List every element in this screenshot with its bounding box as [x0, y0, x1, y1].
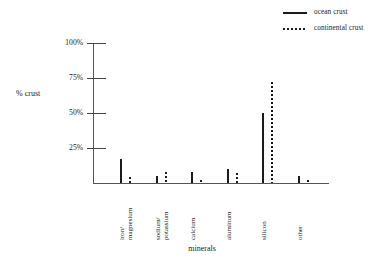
category-label-iron-: iron/	[119, 227, 126, 240]
x-axis-line	[93, 183, 329, 184]
bar-ocean-crust-iron--magnesium	[120, 159, 122, 183]
bar-continental-crust-calcium	[200, 180, 202, 183]
plot-area: 100%75%50%25% iron/magnesiumsodium/potas…	[0, 0, 386, 263]
y-tick-label: 100%	[43, 39, 83, 47]
category-label-sodium-: sodium/	[155, 217, 162, 240]
y-tick-100pct	[87, 43, 106, 44]
bar-continental-crust-silicon	[271, 82, 273, 183]
category-label-magnesium: magnesium	[127, 208, 134, 240]
y-tick-label-wrap: 100%	[40, 43, 83, 44]
y-tick-label-wrap: 75%	[40, 78, 83, 79]
bar-continental-crust-aluminum	[236, 173, 238, 183]
bar-ocean-crust-silicon	[262, 113, 264, 183]
bar-ocean-crust-other	[298, 176, 300, 183]
category-label-potassium: potassium	[163, 212, 170, 240]
bar-ocean-crust-sodium--potassium	[156, 176, 158, 183]
x-axis-title: minerals	[0, 244, 386, 253]
y-tick-75pct	[87, 78, 106, 79]
y-tick-label: 25%	[43, 144, 83, 152]
category-label-other: other	[297, 226, 304, 240]
y-tick-label: 50%	[43, 109, 83, 117]
bar-ocean-crust-aluminum	[227, 169, 229, 183]
y-tick-25pct	[87, 148, 106, 149]
bar-continental-crust-sodium--potassium	[165, 172, 167, 183]
bar-ocean-crust-calcium	[191, 172, 193, 183]
bar-continental-crust-other	[307, 180, 309, 183]
y-tick-label-wrap: 25%	[40, 148, 83, 149]
crust-composition-chart: ocean crust continental crust % crust 10…	[0, 0, 386, 263]
y-tick-label: 75%	[43, 74, 83, 82]
category-label-aluminum: aluminum	[226, 212, 233, 240]
category-label-calcium: calcium	[190, 218, 197, 240]
y-tick-label-wrap: 50%	[40, 113, 83, 114]
y-tick-50pct	[87, 113, 106, 114]
x-axis-title-text: minerals	[188, 244, 216, 253]
bar-continental-crust-iron--magnesium	[129, 177, 131, 183]
category-label-silicon: silicon	[261, 221, 268, 240]
